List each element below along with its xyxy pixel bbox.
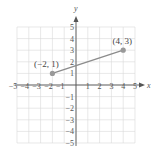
y-tick-label: 4 bbox=[70, 35, 74, 44]
y-tick-label: 3 bbox=[70, 46, 74, 55]
x-tick-label: −2 bbox=[44, 82, 53, 91]
x-tick-label: 4 bbox=[121, 82, 125, 91]
x-axis-label: x bbox=[146, 81, 151, 90]
data-point bbox=[121, 48, 126, 53]
x-tick-label: −3 bbox=[32, 82, 41, 91]
x-tick-label: 1 bbox=[86, 82, 90, 91]
x-tick-label: 5 bbox=[133, 82, 137, 91]
x-tick-label: −4 bbox=[21, 82, 30, 91]
y-tick-label: 5 bbox=[70, 23, 74, 32]
x-tick-label: 3 bbox=[109, 82, 113, 91]
y-tick-label: −5 bbox=[65, 139, 74, 148]
point-label: (4, 3) bbox=[112, 36, 132, 46]
x-tick-label: −1 bbox=[56, 82, 65, 91]
x-axis-arrow-icon bbox=[139, 83, 145, 88]
coordinate-plane: x y −5−4−3−2−11234554321−1−2−3−4−5 (−2, … bbox=[0, 0, 155, 158]
point-label: (−2, 1) bbox=[34, 59, 59, 69]
data-series: (−2, 1)(4, 3) bbox=[34, 36, 132, 76]
y-tick-label: 2 bbox=[70, 58, 74, 67]
y-tick-label: −3 bbox=[65, 116, 74, 125]
x-tick-label: 2 bbox=[98, 82, 102, 91]
x-tick-label: −5 bbox=[9, 82, 18, 91]
axes: x y bbox=[15, 4, 151, 146]
data-point bbox=[50, 71, 55, 76]
y-axis-label: y bbox=[73, 4, 78, 13]
y-axis-arrow-icon bbox=[74, 16, 79, 22]
y-tick-label: −1 bbox=[65, 93, 74, 102]
y-tick-label: −2 bbox=[65, 104, 74, 113]
y-tick-label: 1 bbox=[70, 69, 74, 78]
y-tick-label: −4 bbox=[65, 127, 74, 136]
